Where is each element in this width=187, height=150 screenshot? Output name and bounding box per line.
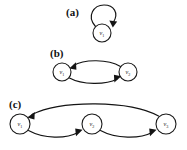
panel-c-label: (c) — [9, 98, 22, 111]
figure-container: (a) v1 (b) v1 v2 (c) — [0, 0, 187, 150]
edge-c-v2-to-v3 — [101, 131, 153, 138]
edge-c-v1-to-v2 — [29, 131, 79, 138]
arrowhead-c-v1-to-v2 — [75, 129, 82, 137]
panel-a-label: (a) — [66, 6, 79, 19]
panel-b-label: (b) — [50, 47, 64, 60]
graph-figure-canvas: (a) v1 (b) v1 v2 (c) — [0, 0, 187, 150]
panel-b: (b) v1 v2 — [50, 47, 137, 83]
arrowhead-a-v1-self-loop — [109, 21, 117, 28]
panel-c: (c) v1 v2 v3 — [9, 98, 176, 137]
edge-b-v2-to-v1 — [74, 61, 121, 67]
arrowhead-c-v2-to-v3 — [149, 129, 156, 137]
edge-b-v1-to-v2 — [70, 78, 118, 83]
panel-a: (a) v1 — [66, 5, 117, 42]
